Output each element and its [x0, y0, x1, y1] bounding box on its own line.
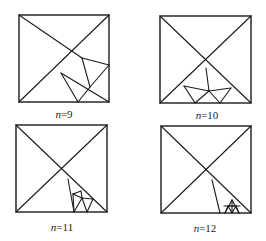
triangulation-edge — [228, 206, 232, 213]
caption-value: =11 — [56, 221, 73, 233]
triangulation-edge — [184, 86, 209, 91]
triangulation-edge — [90, 65, 109, 87]
triangulation-edge — [73, 191, 81, 194]
triangulation-edge — [209, 91, 220, 103]
triangulation-edge — [206, 68, 209, 91]
triangulation-edge — [212, 180, 220, 213]
triangulation-edge — [184, 86, 195, 103]
triangulation-edge — [19, 15, 82, 58]
triangulation-edge — [82, 198, 93, 199]
panel-n11 — [16, 125, 107, 212]
triangulation-edge — [82, 58, 109, 65]
triangulation-edge — [209, 88, 231, 91]
triangulation-edge — [195, 91, 209, 103]
triangulation-edge — [74, 198, 82, 212]
caption-value: =9 — [61, 108, 73, 120]
triangulation-edge — [220, 88, 231, 103]
triangulation-edge — [61, 73, 109, 102]
caption-n11: n=11 — [51, 221, 73, 233]
triangulation-edge — [82, 58, 90, 87]
triangulation-edge — [73, 194, 82, 198]
caption-value: =12 — [199, 222, 216, 234]
panel-n12 — [161, 126, 251, 213]
triangulation-edge — [225, 206, 228, 213]
triangulation-figure — [0, 0, 266, 241]
triangulation-edge — [87, 199, 93, 212]
triangulation-edge — [236, 206, 239, 213]
triangulation-edge — [61, 73, 78, 102]
triangulation-edge — [232, 206, 236, 213]
caption-n12: n=12 — [194, 222, 217, 234]
triangulation-edge — [81, 191, 82, 198]
panel-n9 — [19, 15, 109, 102]
triangulation-edge — [78, 87, 90, 102]
triangulation-edge — [82, 198, 87, 212]
caption-n9: n=9 — [55, 108, 72, 120]
triangulation-edge — [19, 15, 109, 102]
caption-value: =10 — [201, 109, 218, 121]
panel-n10 — [160, 16, 251, 103]
caption-n10: n=10 — [196, 109, 219, 121]
